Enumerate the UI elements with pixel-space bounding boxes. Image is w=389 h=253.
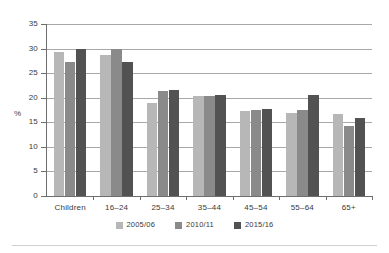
x-tick-label: 65+ [326, 203, 372, 212]
bar [308, 95, 319, 196]
legend: 2005/062010/112015/16 [0, 221, 389, 229]
bar [54, 52, 65, 196]
y-axis-title: % [14, 109, 21, 118]
legend-label: 2010/11 [186, 221, 214, 229]
legend-item: 2015/16 [234, 221, 274, 229]
y-tick-mark [41, 98, 46, 99]
x-tick-label: 45–54 [233, 203, 279, 212]
bar [65, 62, 76, 196]
x-tick-mark [140, 196, 141, 200]
y-tick-mark [41, 24, 46, 25]
y-tick-label: 15 [29, 118, 38, 126]
y-tick-label: 10 [29, 143, 38, 151]
legend-item: 2010/11 [175, 221, 214, 229]
bar [193, 96, 204, 196]
bar-chart-figure: % 05101520253035 Children16–2425–3435–44… [0, 0, 389, 253]
bar [76, 49, 87, 196]
y-tick-mark [41, 196, 46, 197]
gridline [47, 73, 372, 74]
legend-label: 2015/16 [245, 221, 274, 229]
y-tick-mark [41, 122, 46, 123]
bar [111, 49, 122, 196]
bar [158, 91, 169, 196]
y-tick-label: 25 [29, 69, 38, 77]
x-tick-label: 16–24 [93, 203, 139, 212]
x-tick-mark [279, 196, 280, 200]
bar [240, 111, 251, 196]
gridline [47, 24, 372, 25]
bar [251, 110, 262, 196]
y-tick-label: 35 [29, 20, 38, 28]
y-tick-mark [41, 49, 46, 50]
bar [122, 62, 133, 196]
y-tick-label: 30 [29, 45, 38, 53]
bar [147, 103, 158, 196]
bar [262, 109, 273, 196]
bar [204, 96, 215, 196]
x-axis-line [46, 196, 372, 197]
x-tick-label: 35–44 [186, 203, 232, 212]
x-tick-label: 55–64 [279, 203, 325, 212]
x-tick-label: Children [47, 203, 93, 212]
y-tick-mark [41, 73, 46, 74]
bar [169, 90, 180, 196]
x-tick-mark [233, 196, 234, 200]
legend-swatch-icon [175, 222, 182, 229]
y-tick-label: 0 [33, 192, 38, 200]
bottom-divider [12, 245, 377, 246]
bar [286, 113, 297, 196]
bar [215, 95, 226, 196]
x-tick-mark [93, 196, 94, 200]
y-tick-mark [41, 171, 46, 172]
legend-label: 2005/06 [127, 221, 156, 229]
x-tick-label: 25–34 [140, 203, 186, 212]
bar [297, 110, 308, 196]
bar [355, 118, 366, 196]
bar [100, 55, 111, 196]
y-tick-label: 5 [33, 167, 38, 175]
bar [333, 114, 344, 196]
y-tick-label: 20 [29, 94, 38, 102]
legend-swatch-icon [234, 222, 241, 229]
legend-swatch-icon [116, 222, 123, 229]
x-tick-mark [372, 196, 373, 200]
x-tick-mark [186, 196, 187, 200]
x-tick-mark [326, 196, 327, 200]
gridline [47, 49, 372, 50]
legend-item: 2005/06 [116, 221, 156, 229]
bar [344, 126, 355, 196]
y-tick-mark [41, 147, 46, 148]
